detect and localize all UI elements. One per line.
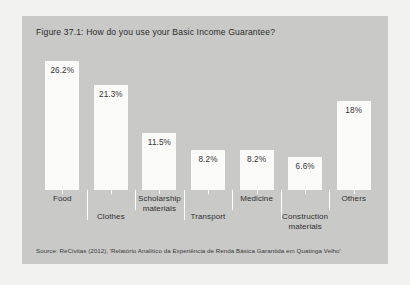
category-labels: FoodClothesScholarshipmaterialsTransport…: [36, 194, 376, 240]
bar-value-label: 18%: [337, 106, 371, 115]
source-note: Source: ReCivitas (2012), 'Relatório Ana…: [36, 247, 341, 254]
chart-panel: Figure 37.1: How do you use your Basic I…: [22, 16, 388, 264]
bar-group: 26.2%: [45, 52, 79, 190]
category-label-line: Construction: [282, 212, 328, 221]
bar-value-label: 26.2%: [45, 66, 79, 75]
bar-group: 21.3%: [94, 52, 128, 190]
category-label: Food: [32, 194, 93, 204]
bar-value-label: 11.5%: [142, 138, 176, 147]
category-label-line: Transport: [191, 212, 226, 221]
category-label-line: Food: [53, 194, 72, 203]
bar-group: 6.6%: [288, 52, 322, 190]
bar: [45, 61, 79, 190]
bar: [94, 85, 128, 190]
bar-value-label: 6.6%: [288, 162, 322, 171]
category-label-line: Scholarship: [138, 194, 181, 203]
category-label-line: Others: [341, 194, 366, 203]
bar-group: 11.5%: [142, 52, 176, 190]
bar-group: 18%: [337, 52, 371, 190]
category-label: Scholarshipmaterials: [129, 194, 190, 213]
bar-value-label: 8.2%: [191, 155, 225, 164]
bar-plot-area: 26.2%21.3%11.5%8.2%8.2%6.6%18%: [36, 52, 376, 190]
category-label-line: Medicine: [240, 194, 273, 203]
category-label: Constructionmaterials: [275, 212, 336, 231]
bar-group: 8.2%: [240, 52, 274, 190]
category-label: Transport: [178, 212, 239, 222]
bar-group: 8.2%: [191, 52, 225, 190]
figure-container: Figure 37.1: How do you use your Basic I…: [0, 0, 410, 285]
category-label: Clothes: [81, 212, 142, 222]
category-label-line: materials: [275, 222, 336, 232]
category-label: Medicine: [226, 194, 287, 204]
bar-value-label: 8.2%: [240, 155, 274, 164]
figure-title: Figure 37.1: How do you use your Basic I…: [36, 27, 275, 37]
category-label: Others: [323, 194, 384, 204]
category-label-line: Clothes: [97, 212, 125, 221]
bar-value-label: 21.3%: [94, 90, 128, 99]
